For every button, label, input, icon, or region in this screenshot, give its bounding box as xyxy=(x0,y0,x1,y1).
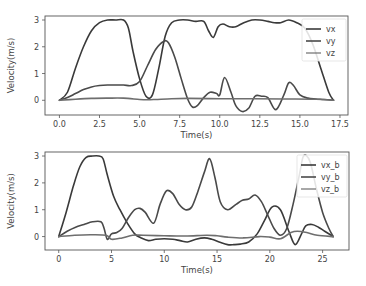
y-tick-label: 0 xyxy=(34,233,39,242)
y-tick-label: 0 xyxy=(34,96,39,105)
y-tick-label: 2 xyxy=(34,43,39,52)
bottom-velocity-plot: 0510152025 0123 Time(s) Velocity(m/s) vx… xyxy=(6,152,349,275)
x-tick-label: 10 xyxy=(159,255,169,264)
legend-label-vy: vy xyxy=(326,37,336,46)
legend: vxvyvz xyxy=(302,19,346,61)
y-tick-label: 1 xyxy=(34,206,39,215)
y-tick-label: 2 xyxy=(34,179,39,188)
legend-frame xyxy=(302,19,346,61)
x-ticks: 0.02.55.07.510.012.515.017.5 xyxy=(53,115,349,129)
series-vy-line xyxy=(59,41,333,112)
x-tick-label: 15.0 xyxy=(291,120,309,129)
x-tick-label: 12.5 xyxy=(251,120,269,129)
x-axis-label: Time(s) xyxy=(180,130,213,140)
y-tick-label: 1 xyxy=(34,70,39,79)
legend: vx_bvy_bvz_b xyxy=(297,155,347,197)
x-tick-label: 0 xyxy=(56,255,61,264)
series-vx-line xyxy=(59,19,333,100)
x-tick-label: 7.5 xyxy=(173,120,186,129)
top-velocity-plot: 0.02.55.07.510.012.515.017.5 0123 Time(s… xyxy=(6,16,349,140)
x-axis-label: Time(s) xyxy=(180,265,213,275)
legend-label-vx_b: vx_b xyxy=(321,161,340,170)
x-tick-label: 5.0 xyxy=(133,120,146,129)
series-vz-line xyxy=(59,98,333,100)
series-vy_b-line xyxy=(59,155,333,239)
y-axis-label: Velocity(m/s) xyxy=(6,173,16,229)
legend-label-vy_b: vy_b xyxy=(321,173,340,182)
y-tick-label: 3 xyxy=(34,152,39,161)
x-tick-label: 10.0 xyxy=(211,120,229,129)
x-ticks: 0510152025 xyxy=(56,250,328,264)
x-tick-label: 20 xyxy=(265,255,275,264)
curves xyxy=(59,19,333,111)
y-ticks: 0123 xyxy=(34,152,45,242)
y-ticks: 0123 xyxy=(34,16,45,105)
x-tick-label: 5 xyxy=(109,255,114,264)
figure: 0.02.55.07.510.012.515.017.5 0123 Time(s… xyxy=(0,0,366,286)
x-tick-label: 25 xyxy=(318,255,328,264)
x-tick-label: 17.5 xyxy=(331,120,349,129)
x-tick-label: 15 xyxy=(212,255,222,264)
y-tick-label: 3 xyxy=(34,16,39,25)
x-tick-label: 0.0 xyxy=(53,120,66,129)
curves xyxy=(59,155,333,245)
x-tick-label: 2.5 xyxy=(93,120,106,129)
legend-label-vx: vx xyxy=(326,25,336,34)
y-axis-label: Velocity(m/s) xyxy=(6,38,16,94)
legend-label-vz: vz xyxy=(326,49,335,58)
legend-label-vz_b: vz_b xyxy=(321,185,339,194)
